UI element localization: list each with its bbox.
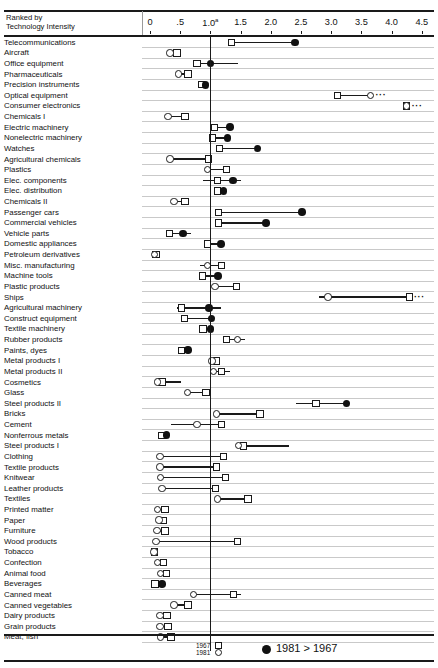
marker-1967 [218,421,225,428]
marker-1981 [214,495,221,502]
row-label: Tobacco [4,547,33,556]
row-label: Domestic appliances [4,239,77,248]
row-gridline [142,143,434,144]
axis-tick-mark-5 [301,31,302,34]
row-label: Cement [4,420,32,429]
marker-1967 [178,304,185,311]
row-gridline [142,281,434,282]
marker-1967 [230,591,237,598]
row-label: Printed matter [4,505,54,514]
reference-line-1.0 [210,37,211,651]
row-label: Paper [4,516,25,525]
marker-1967 [234,538,241,545]
row-label: Agricultural machinery [4,303,82,312]
row-label: Knitwear [4,473,35,482]
row-label: Dairy products [4,611,55,620]
row-gridline [142,217,434,218]
row-gridline [142,451,434,452]
row-gridline [142,461,434,462]
range-connector-line [161,477,226,478]
marker-1967 [214,177,221,184]
row-label: Confection [4,558,42,567]
axis-tick-label-5: 2.5 [295,17,308,27]
rank-header-line2: Technology Intensity [6,23,75,31]
row-label: Chemicals I [4,112,45,121]
marker-1967 [233,283,240,290]
row-gridline [142,175,434,176]
marker-1967 [312,400,319,407]
range-connector-line [170,158,209,159]
offscale-continuation-dots: ··· [375,93,386,97]
marker-1981 [150,548,157,555]
range-connector-line [216,413,259,414]
top-rule [4,10,434,12]
legend-circle-marker [215,649,222,656]
marker-1981 [211,283,218,290]
marker-1981 [324,293,331,300]
range-connector-line [219,148,257,149]
row-gridline [142,164,434,165]
range-connector-line [162,488,215,489]
axis-tick-label-1: .5 [176,17,184,27]
row-gridline [142,270,434,271]
row-label: Glass [4,388,24,397]
marker-1981 [403,102,410,109]
axis-tick-label-8: 4.0 [385,17,398,27]
row-gridline [142,58,434,59]
marker-1981 [166,155,173,162]
row-gridline [142,238,434,239]
range-connector-line [319,296,410,297]
row-label: Wood products [4,537,57,546]
marker-1981-greater [179,230,187,238]
row-gridline [142,313,434,314]
marker-1981-greater [229,177,237,185]
marker-1967 [166,230,173,237]
marker-1967 [173,49,180,56]
row-gridline [142,366,434,367]
legend-square-marker [215,642,222,649]
row-label: Beverages [4,579,42,588]
marker-1967 [181,113,188,120]
row-label: Commercial vehicles [4,218,77,227]
row-label: Watches [4,144,34,153]
row-label: Elec. distribution [4,186,62,195]
marker-1981-greater [226,123,234,131]
marker-1981 [166,49,173,56]
marker-1981-greater [343,400,351,408]
marker-1981 [190,591,197,598]
marker-1967 [256,410,263,417]
row-gridline [142,121,434,122]
row-label: Canned vegetables [4,601,72,610]
row-label: Leather products [4,484,63,493]
row-label: Optical equipment [4,91,68,100]
row-label: Paints, dyes [4,346,47,355]
marker-1967 [244,495,251,502]
legend-note-text: 1981 > 1967 [276,642,337,654]
range-connector-line [160,456,223,457]
row-gridline [142,568,434,569]
range-connector-line [156,541,238,542]
marker-1981-greater [202,81,210,89]
row-label: Metal products I [4,356,60,365]
axis-tick-label-9: 4.5 [415,17,428,27]
marker-1967 [164,623,171,630]
row-gridline [142,323,434,324]
marker-1967 [223,336,230,343]
marker-1967 [334,92,341,99]
row-gridline [142,472,434,473]
axis-tick-mark-4 [271,31,272,34]
row-label: Plastic products [4,282,60,291]
marker-1981 [175,70,182,77]
offscale-continuation-dots: ··· [414,295,425,299]
marker-1967 [205,155,212,162]
row-gridline [142,599,434,600]
row-gridline [142,536,434,537]
axis-tick-label-4: 2.0 [264,17,277,27]
marker-1967 [218,368,225,375]
axis-tick-label-3: 1.5 [234,17,247,27]
marker-1967 [220,453,227,460]
row-gridline [142,408,434,409]
axis-tick-mark-9 [422,31,423,34]
marker-1981 [213,410,220,417]
row-label: Animal food [4,569,46,578]
